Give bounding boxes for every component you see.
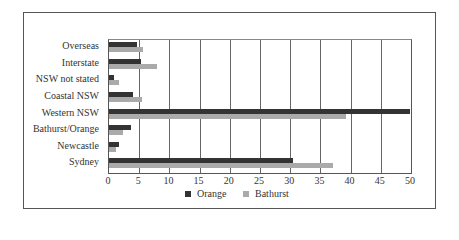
x-tick-label: 35 [314,175,324,186]
x-tick-label: 20 [224,175,234,186]
x-tick-label: 50 [405,175,415,186]
legend-label-orange: Orange [197,188,226,199]
x-tick-label: 30 [284,175,294,186]
gridline [260,40,261,173]
bar-bathurst [109,147,116,152]
bar-bathurst [109,80,119,85]
legend-swatch-bathurst [243,191,249,197]
plot-area [108,39,412,174]
x-tick-label: 25 [254,175,264,186]
bar-bathurst [109,163,333,168]
category-label: Coastal NSW [44,90,99,101]
gridline [351,40,352,173]
category-label: NSW not stated [36,73,99,84]
x-tick-label: 40 [345,175,355,186]
legend-label-bathurst: Bathurst [255,188,289,199]
gridline [200,40,201,173]
category-label: Newcastle [57,140,99,151]
category-label: Overseas [62,40,99,51]
category-label: Interstate [62,57,99,68]
gridline [230,40,231,173]
gridline [169,40,170,173]
category-label: Sydney [69,156,99,167]
legend-item-bathurst: Bathurst [243,188,289,199]
category-label: Western NSW [42,107,99,118]
category-label: Bathurst/Orange [33,123,99,134]
gridline [290,40,291,173]
bar-bathurst [109,64,157,69]
gridline [381,40,382,173]
x-tick-label: 5 [136,175,141,186]
x-tick-label: 10 [163,175,173,186]
x-tick-label: 45 [375,175,385,186]
bar-bathurst [109,130,123,135]
bar-bathurst [109,114,346,119]
bar-bathurst [109,47,143,52]
bar-bathurst [109,97,142,102]
x-tick-label: 15 [194,175,204,186]
gridline [320,40,321,173]
legend-swatch-orange [185,191,191,197]
legend-item-orange: Orange [185,188,226,199]
x-tick-label: 0 [106,175,111,186]
